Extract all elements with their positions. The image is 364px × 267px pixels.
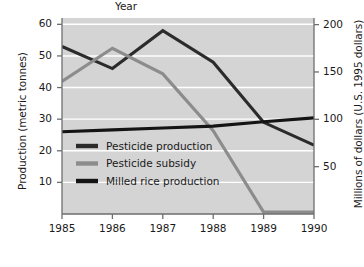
x-tick-label: 1989 — [244, 222, 284, 234]
legend-label-0: Pesticide production — [106, 140, 212, 152]
x-tick-label: 1988 — [193, 222, 233, 234]
x-tick-label: 1986 — [92, 222, 132, 234]
plot-svg: Pesticide productionPesticide subsidyMil… — [62, 18, 314, 214]
y-tick-label-right: 50 — [323, 160, 353, 172]
x-axis-label: Year — [0, 0, 252, 12]
y-tick-label-left: 60 — [26, 17, 52, 29]
x-tick-label: 1990 — [294, 222, 334, 234]
y-tick-label-left: 10 — [26, 175, 52, 187]
plot-area: Pesticide productionPesticide subsidyMil… — [62, 18, 314, 214]
x-tick-label: 1987 — [143, 222, 183, 234]
legend-label-1: Pesticide subsidy — [106, 157, 196, 169]
y-tick-label-right: 100 — [323, 112, 353, 124]
legend-label-2: Milled rice production — [106, 175, 219, 187]
x-tick-label: 1985 — [42, 222, 82, 234]
y-tick-label-right: 200 — [323, 18, 353, 30]
y-tick-label-left: 50 — [26, 49, 52, 61]
y-axis-label-right: Millions of dollars (U.S. 1995 dollars) — [352, 4, 364, 224]
y-tick-label-left: 30 — [26, 112, 52, 124]
y-tick-label-left: 20 — [26, 144, 52, 156]
y-tick-label-right: 150 — [323, 65, 353, 77]
y-tick-label-left: 40 — [26, 81, 52, 93]
